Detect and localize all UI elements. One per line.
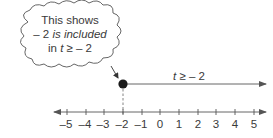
- callout-line-3: in t ≥ – 2: [48, 42, 92, 54]
- tick-label: –1: [135, 118, 148, 130]
- callout-pointer-arrow: [111, 66, 118, 78]
- solution-ray: t ≥ – 2: [118, 70, 266, 89]
- inequality-number-line-diagram: This shows – 2 is included in t ≥ – 2 t …: [0, 0, 273, 138]
- tick-label: –5: [60, 118, 73, 130]
- tick-label: 1: [176, 118, 182, 130]
- callout-cloud: This shows – 2 is included in t ≥ – 2: [20, 0, 121, 67]
- tick-label: 2: [195, 118, 201, 130]
- tick-labels: –5 –4 –3 –2 –1 0 1 2 3 4 5: [60, 118, 258, 130]
- tick-label: –4: [79, 118, 92, 130]
- closed-dot: [118, 79, 127, 88]
- tick-label: –3: [97, 118, 110, 130]
- tick-label: 4: [232, 118, 239, 130]
- callout-line-2: – 2 is included: [33, 28, 107, 40]
- number-line: –5 –4 –3 –2 –1 0 1 2 3 4 5: [54, 109, 266, 130]
- tick-label: –2: [116, 118, 129, 130]
- ray-label: t ≥ – 2: [173, 70, 205, 82]
- tick-label: 0: [157, 118, 163, 130]
- tick-label: 5: [251, 118, 257, 130]
- tick-label: 3: [213, 118, 219, 130]
- callout-line-1: This shows: [41, 14, 99, 26]
